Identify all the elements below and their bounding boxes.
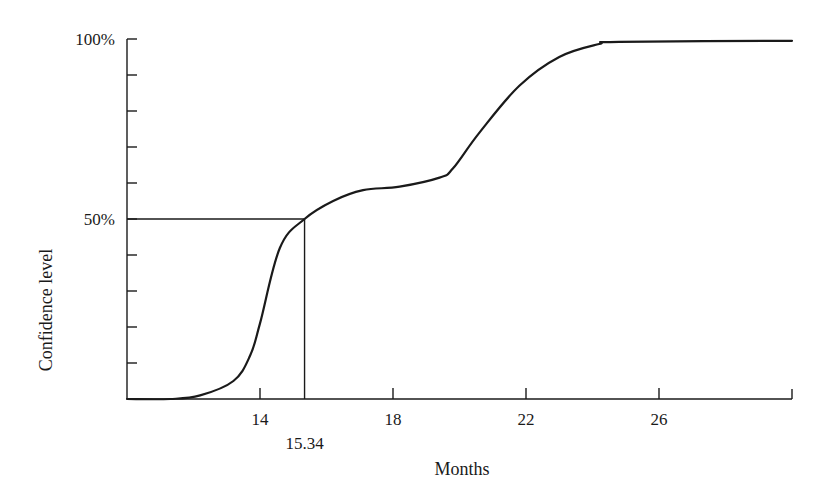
x-tick-label: 26	[651, 410, 668, 429]
x-tick-label: 18	[385, 410, 402, 429]
confidence-chart: 50%100%14182226 15.34 Confidence level M…	[0, 0, 827, 498]
axes: 50%100%14182226	[75, 30, 792, 429]
reference-lines: 15.34	[127, 219, 324, 453]
x-tick-label: 22	[518, 410, 535, 429]
y-tick-label: 50%	[84, 210, 115, 229]
series-line-confidence	[127, 41, 792, 399]
x-tick-label: 14	[252, 410, 270, 429]
y-axis-title: Confidence level	[36, 249, 56, 371]
labels: Confidence level Months	[36, 249, 490, 479]
x-axis-title: Months	[434, 459, 489, 479]
reference-x-label: 15.34	[285, 434, 324, 453]
y-tick-label: 100%	[75, 30, 115, 49]
